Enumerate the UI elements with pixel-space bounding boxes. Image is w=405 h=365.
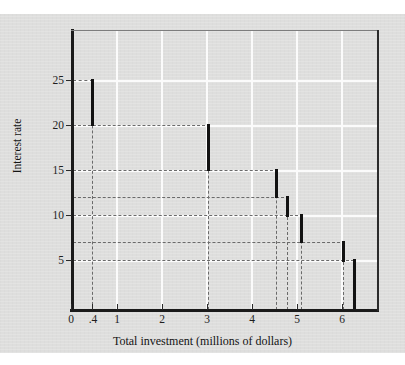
x-tick-mark-5 xyxy=(297,304,298,310)
x-tick-label-6: 6 xyxy=(339,313,345,325)
y-tick-label-25: 25 xyxy=(44,74,64,86)
x-tick-label-2: 2 xyxy=(159,313,165,325)
x-tick-label-5: 5 xyxy=(294,313,300,325)
step-segment-4-7 xyxy=(286,196,289,217)
y-axis-title: Interest rate xyxy=(11,96,23,196)
guide-horizontal-25 xyxy=(73,80,93,81)
y-tick-label-20: 20 xyxy=(44,119,64,131)
plot-frame-right xyxy=(377,30,379,311)
y-tick-label-10: 10 xyxy=(44,209,64,221)
y-tick-mark-25 xyxy=(66,80,72,81)
x-tick-mark-6 xyxy=(342,304,343,310)
y-tick-mark-5 xyxy=(66,260,72,261)
x-axis-title: Total investment (millions of dollars) xyxy=(0,334,405,349)
x-tick-label-0: 0 xyxy=(68,313,74,325)
gridline-horizontal-25 xyxy=(73,80,378,82)
x-tick-label-0-4: .4 xyxy=(89,313,98,325)
guide-horizontal-7 xyxy=(73,242,345,243)
guide-horizontal-15 xyxy=(73,170,278,171)
y-tick-mark-10 xyxy=(66,215,72,216)
plot-frame-top xyxy=(71,30,379,31)
x-tick-label-3: 3 xyxy=(204,313,210,325)
y-tick-mark-15 xyxy=(66,170,72,171)
figure-panel xyxy=(0,14,405,353)
x-tick-mark-2 xyxy=(162,304,163,310)
step-segment-0-4 xyxy=(91,79,94,126)
y-tick-mark-20 xyxy=(66,125,72,126)
step-segment-6 xyxy=(342,241,345,262)
paper-texture xyxy=(0,14,405,353)
x-tick-mark-1 xyxy=(117,304,118,310)
x-tick-label-4: 4 xyxy=(249,313,255,325)
guide-horizontal-12 xyxy=(73,197,289,198)
y-tick-label-5: 5 xyxy=(44,254,64,266)
step-segment-3 xyxy=(207,124,210,171)
investment-demand-figure: 0 .4 1 2 3 4 5 6 25 20 15 10 5 Total inv… xyxy=(0,0,405,365)
x-tick-label-1: 1 xyxy=(114,313,120,325)
x-tick-mark-3 xyxy=(207,304,208,310)
guide-horizontal-10 xyxy=(73,215,303,216)
step-segment-4-5 xyxy=(275,169,278,198)
step-segment-5 xyxy=(300,214,303,243)
x-tick-mark-0-4 xyxy=(92,304,93,310)
x-tick-mark-0 xyxy=(71,304,72,310)
guide-horizontal-5 xyxy=(73,260,354,261)
y-tick-label-15: 15 xyxy=(44,164,64,176)
step-segment-6-2 xyxy=(353,259,356,310)
x-tick-mark-4 xyxy=(252,304,253,310)
